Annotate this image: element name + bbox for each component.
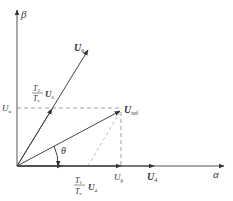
- alpha-label: α: [213, 168, 219, 180]
- beta-label: β: [20, 8, 27, 20]
- u-alpha-label: Uα: [2, 103, 12, 114]
- u4-label: U4: [147, 171, 157, 183]
- space-vector-diagram: β α U6 Uref U4 Uα Uβ θ T2 Ts U6 T1 Ts U4: [0, 0, 233, 201]
- svg-text:Ts: Ts: [75, 187, 81, 196]
- theta-label: θ: [61, 145, 66, 156]
- svg-text:T1: T1: [75, 176, 82, 185]
- svg-text:T2: T2: [33, 84, 40, 93]
- svg-text:Ts: Ts: [33, 94, 39, 103]
- t2-u6-arrow: [17, 109, 52, 166]
- theta-arc: [54, 146, 58, 166]
- t1-ts-u4-label: T1 Ts U4: [74, 176, 98, 196]
- u-beta-label: Uβ: [114, 172, 124, 183]
- uref-label: Uref: [124, 104, 138, 116]
- svg-text:U6: U6: [45, 89, 55, 100]
- svg-text:U4: U4: [88, 182, 98, 193]
- u6-label: U6: [74, 42, 84, 54]
- t2-ts-u6-label: T2 Ts U6: [32, 84, 55, 103]
